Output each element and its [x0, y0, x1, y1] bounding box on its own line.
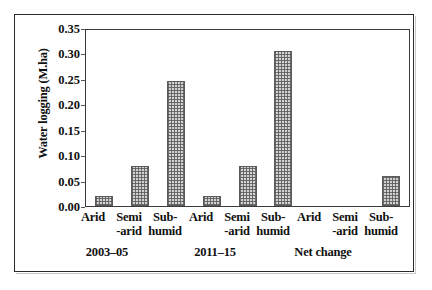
y-tick-label-2: 0.25: [38, 74, 80, 87]
y-tick-label-5: 0.10: [38, 150, 80, 163]
x-category-line1-8: Sub-: [369, 210, 393, 224]
bar-2: [167, 81, 185, 206]
y-tick-label-3: 0.20: [38, 99, 80, 112]
y-tick-mark-7: [81, 207, 85, 208]
y-tick-label-1: 0.30: [38, 48, 80, 61]
group-label-2: Net change: [263, 245, 383, 260]
y-tick-label-4: 0.15: [38, 124, 80, 137]
bar-4: [239, 166, 257, 206]
bar-1: [131, 166, 149, 206]
group-label-1: 2011–15: [155, 245, 275, 260]
plot-area: [85, 29, 410, 207]
bar-3: [203, 196, 221, 206]
x-category-line2-2: humid: [137, 224, 193, 238]
bar-8: [382, 176, 400, 206]
group-label-0: 2003–05: [47, 245, 167, 260]
y-tick-label-6: 0.05: [38, 175, 80, 188]
bar-0: [95, 196, 113, 206]
figure-bar-chart-water-logging: Water logging (M.ha) 0.35 0.30 0.25 0.20…: [0, 0, 432, 290]
x-category-line2-5: humid: [245, 224, 301, 238]
x-category-label-8: Sub- humid: [353, 210, 409, 238]
bar-5: [274, 51, 292, 206]
y-tick-label-0: 0.35: [38, 23, 80, 36]
x-category-line2-8: humid: [353, 224, 409, 238]
